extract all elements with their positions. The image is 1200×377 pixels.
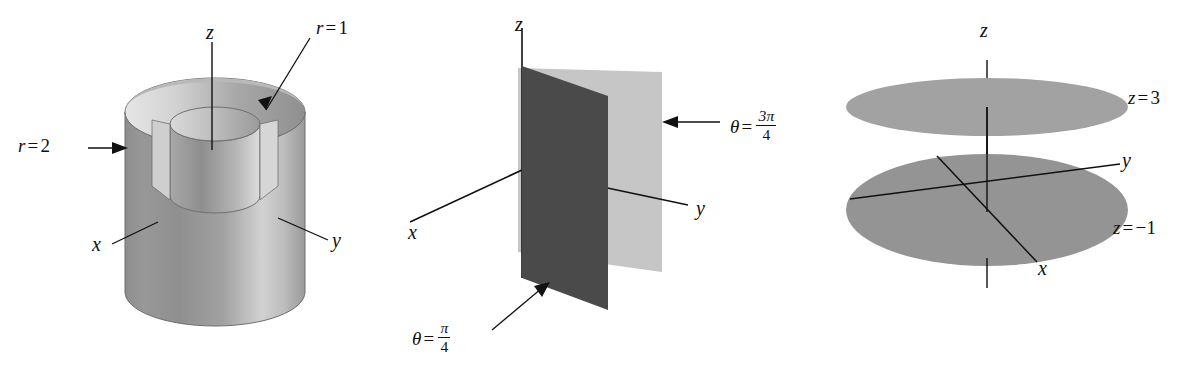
x-axis-label: x — [1038, 258, 1047, 278]
z-symbol: z — [1128, 87, 1136, 108]
r-symbol: r — [316, 17, 324, 38]
r-value: 1 — [339, 17, 349, 38]
y-axis-label: y — [332, 230, 341, 250]
equals-sign: = — [324, 17, 339, 38]
z-axis-label: z — [515, 14, 523, 34]
z-value: −1 — [1136, 217, 1157, 238]
panel-constant-theta: z x y θ=3π4 θ=π4 — [400, 0, 800, 377]
level-planes-graphic — [800, 0, 1200, 377]
fraction-denominator: 4 — [438, 338, 450, 355]
z-axis-label: z — [980, 20, 988, 40]
fraction-3pi-over-4: 3π4 — [756, 108, 776, 143]
near-half-plane — [522, 66, 608, 310]
cylindrical-coordinates-figure: z x y r=1 r=2 — [0, 0, 1200, 377]
inner-cylinder-top-rim — [170, 107, 260, 141]
z-value: 3 — [1151, 87, 1161, 108]
theta-symbol: θ — [412, 328, 422, 349]
theta-pi4-leader-line — [492, 288, 542, 330]
fraction-denominator: 4 — [756, 126, 776, 143]
theta-equals-3pi-over-4-label: θ=3π4 — [730, 108, 776, 143]
cut-face-right — [260, 120, 278, 200]
z-symbol: z — [1113, 217, 1121, 238]
fraction-numerator: π — [438, 320, 450, 338]
r-symbol: r — [18, 135, 26, 156]
half-planes-graphic — [400, 0, 800, 377]
fraction-numerator: 3π — [756, 108, 776, 126]
z-axis-label: z — [206, 22, 214, 42]
theta-symbol: θ — [730, 116, 740, 137]
x-axis-line — [410, 170, 522, 222]
r-value: 2 — [41, 135, 51, 156]
cut-face-left — [152, 120, 170, 200]
equals-sign: = — [26, 135, 41, 156]
equals-sign: = — [422, 328, 437, 349]
cylinders-graphic — [0, 0, 400, 377]
equals-sign: = — [1136, 87, 1151, 108]
theta-equals-pi-over-4-label: θ=π4 — [412, 320, 450, 355]
fraction-pi-over-4: π4 — [438, 320, 450, 355]
theta-3pi4-arrowhead — [662, 116, 678, 128]
r-equals-1-label: r=1 — [316, 18, 348, 37]
y-axis-label: y — [696, 198, 705, 218]
equals-sign: = — [740, 116, 755, 137]
x-axis-label: x — [408, 222, 417, 242]
panel-constant-z: z x y z=3 z=−1 — [800, 0, 1200, 377]
equals-sign: = — [1121, 217, 1136, 238]
panel-constant-r: z x y r=1 r=2 — [0, 0, 400, 377]
z-equals-3-label: z=3 — [1128, 88, 1160, 107]
x-axis-label: x — [92, 234, 101, 254]
theta-pi4-arrowhead — [534, 282, 550, 297]
r-equals-2-label: r=2 — [18, 136, 50, 155]
z-equals-minus-1-label: z=−1 — [1113, 218, 1156, 237]
y-axis-label: y — [1122, 150, 1131, 170]
